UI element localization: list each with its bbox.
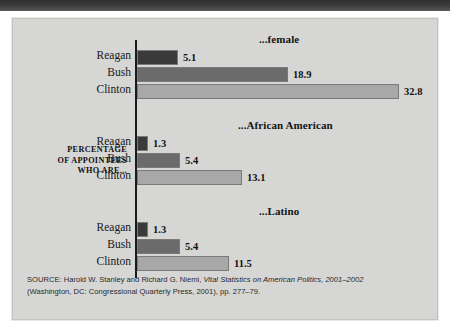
bar-clinton-latino [137,256,229,271]
source-years: 2001–2002 [323,275,363,284]
bar-group-latino: Reagan 1.3 Bush 5.4 Clinton 11.5 [13,222,437,273]
bar-value-clinton-female: 32.8 [404,84,422,99]
bar-label-clinton: Clinton [11,83,131,95]
bar-label-bush: Bush [11,238,131,250]
table-row: Clinton 11.5 [13,256,437,271]
source-prefix: SOURCE: [27,275,62,284]
bar-clinton-female [137,84,399,99]
chart-panel: ...female Reagan 5.1 Bush 18.9 Clinton [12,18,438,320]
group-title-latino: ...Latino [259,205,299,217]
y-axis-caption-line-2: OF APPOINTEES [19,156,127,167]
bar-value-reagan-latino: 1.3 [153,222,166,237]
bar-label-bush: Bush [11,66,131,78]
bar-bush-african-american [137,153,180,168]
bar-value-bush-latino: 5.4 [185,239,198,254]
source-title: Vital Statistics on American Politics, [203,275,323,284]
plot-area: ...female Reagan 5.1 Bush 18.9 Clinton [13,19,437,267]
source-authors: Harold W. Stanley and Richard G. Niemi, [62,275,204,284]
bar-label-reagan: Reagan [11,221,131,233]
bar-bush-female [137,67,288,82]
source-publisher: (Washington, DC: Congressional Quarterly… [27,287,260,296]
table-row: Bush 5.4 [13,239,437,254]
figure-container: ...female Reagan 5.1 Bush 18.9 Clinton [0,0,450,336]
bar-bush-latino [137,239,180,254]
bar-reagan-latino [137,222,148,237]
cropped-header-band [0,0,450,11]
bar-label-reagan: Reagan [11,49,131,61]
bar-value-bush-female: 18.9 [293,67,311,82]
bar-label-clinton: Clinton [11,255,131,267]
bar-value-bush-african-american: 5.4 [185,153,198,168]
table-row: Reagan 5.1 [13,50,437,65]
bar-group-female: Reagan 5.1 Bush 18.9 Clinton 32.8 [13,50,437,101]
bar-reagan-female [137,50,178,65]
bar-value-reagan-african-american: 1.3 [153,136,166,151]
bar-value-clinton-latino: 11.5 [234,256,252,271]
table-row: Bush 18.9 [13,67,437,82]
group-title-female: ...female [259,33,299,45]
y-axis-caption-line-3: WHO ARE... [19,166,127,177]
table-row: Reagan 1.3 [13,222,437,237]
group-title-african-american: ...African American [238,119,333,131]
bar-value-reagan-female: 5.1 [183,50,196,65]
source-note: SOURCE: Harold W. Stanley and Richard G.… [27,274,427,297]
bar-reagan-african-american [137,136,148,151]
y-axis-caption-line-1: PERCENTAGE [19,145,127,156]
bar-value-clinton-african-american: 13.1 [247,170,265,185]
y-axis-caption: PERCENTAGE OF APPOINTEES WHO ARE... [19,145,127,177]
bar-clinton-african-american [137,170,242,185]
table-row: Clinton 32.8 [13,84,437,99]
